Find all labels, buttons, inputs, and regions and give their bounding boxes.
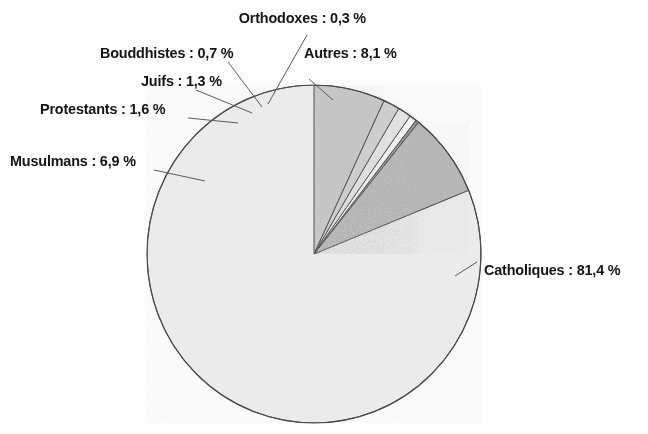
slice-label-musulmans: Musulmans : 6,9 % <box>10 153 136 169</box>
slice-label-catholiques: Catholiques : 81,4 % <box>484 262 620 278</box>
pie-chart-canvas <box>0 0 648 434</box>
pie-chart-figure: Orthodoxes : 0,3 % Bouddhistes : 0,7 % J… <box>0 0 648 434</box>
slice-label-bouddhistes: Bouddhistes : 0,7 % <box>100 45 233 61</box>
slice-label-autres: Autres : 8,1 % <box>304 45 397 61</box>
slice-label-orthodoxes: Orthodoxes : 0,3 % <box>239 10 366 26</box>
slice-label-protestants: Protestants : 1,6 % <box>40 101 165 117</box>
pie-slices-group <box>147 85 481 423</box>
slice-label-juifs: Juifs : 1,3 % <box>141 73 222 89</box>
